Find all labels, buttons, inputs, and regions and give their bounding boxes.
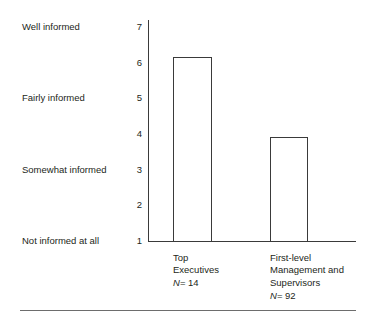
- chart-figure: Well informed Fairly informed Somewhat i…: [0, 0, 377, 321]
- y-tick-6: 6: [128, 58, 142, 68]
- scale-label-well-informed: Well informed: [22, 22, 80, 32]
- bar-top-executives: [173, 57, 212, 242]
- bar-first-level-management-and-supervisors: [270, 137, 308, 242]
- footer-divider: [20, 310, 356, 311]
- y-tick-1: 1: [128, 236, 142, 246]
- category-caption-first-level-management: First-level Management and Supervisors: [270, 252, 374, 289]
- n-value-top-executives: = 14: [180, 277, 199, 288]
- n-symbol-first-level-management: N: [270, 290, 277, 301]
- y-tick-5: 5: [128, 93, 142, 103]
- category-caption-top-executives: Top Executives: [173, 252, 263, 277]
- category-n-top-executives: N= 14: [173, 277, 199, 289]
- n-value-first-level-management: = 92: [277, 290, 296, 301]
- scale-label-somewhat-informed: Somewhat informed: [22, 165, 106, 175]
- y-tick-2: 2: [128, 200, 142, 210]
- y-axis-line: [148, 20, 149, 241]
- y-tick-4: 4: [128, 129, 142, 139]
- category-n-first-level-management: N= 92: [270, 290, 296, 302]
- scale-label-not-informed-at-all: Not informed at all: [22, 236, 99, 246]
- y-tick-7: 7: [128, 22, 142, 32]
- n-symbol-top-executives: N: [173, 277, 180, 288]
- scale-label-fairly-informed: Fairly informed: [22, 93, 85, 103]
- y-tick-3: 3: [128, 165, 142, 175]
